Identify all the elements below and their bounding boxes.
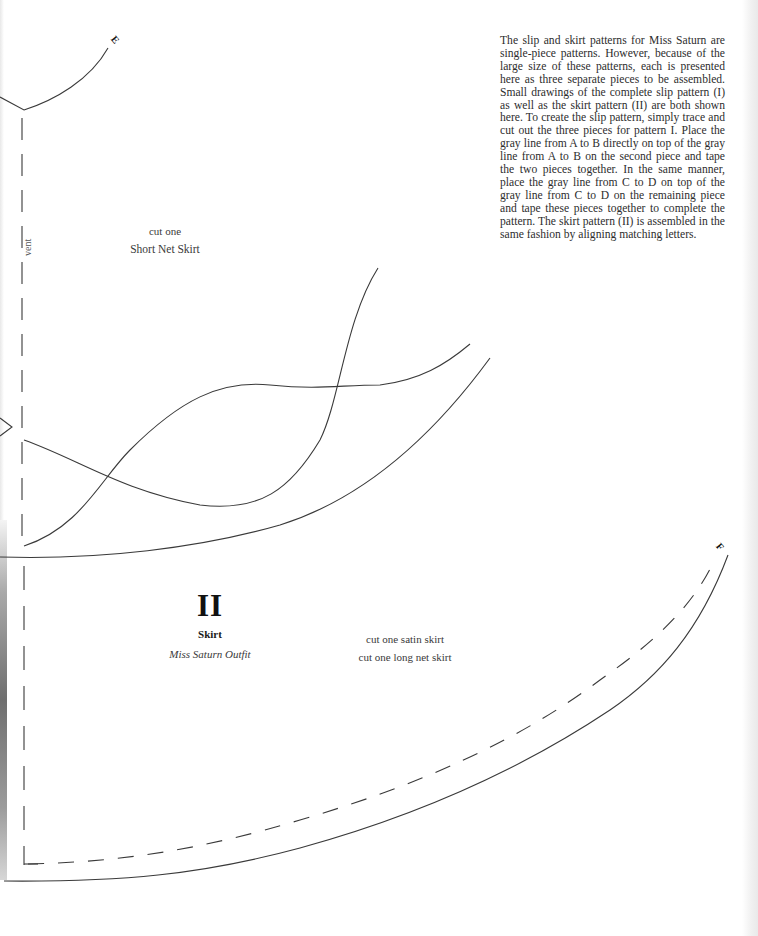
net-hem-curve [0,358,490,557]
notch-mark [0,418,12,436]
cut-instruction-satin: cut one satin skirt [340,633,470,645]
cut-instruction-long-net: cut one long net skirt [335,651,475,663]
pattern-numeral: II [180,588,240,624]
hem-curve-a [24,344,470,546]
assembly-instructions: The slip and skirt patterns for Miss Sat… [500,35,725,242]
vent-label: vent [22,239,33,256]
skirt-hem-outer [4,555,728,881]
pattern-title: Skirt [170,628,250,640]
skirt-hem-dashed [28,565,712,864]
piece-name-short-net-skirt: Short Net Skirt [105,243,225,255]
cut-instruction-upper: cut one [130,225,200,237]
outfit-name: Miss Saturn Outfit [140,648,280,660]
waist-curve-upper [0,48,108,110]
